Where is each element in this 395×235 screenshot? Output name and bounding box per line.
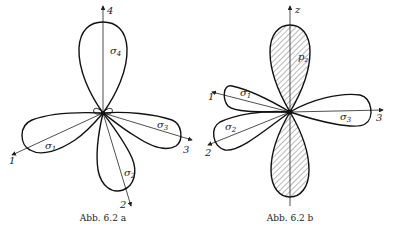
nucleus-dot <box>101 111 105 115</box>
axis-2 <box>103 113 131 206</box>
lobe-sigma2 <box>97 113 135 191</box>
caption-b: Abb. 6.2 b <box>266 213 314 223</box>
axis-label-1: 1 <box>208 91 214 102</box>
axis-3 <box>290 110 383 112</box>
axis-label-2: 2 <box>204 147 211 158</box>
lobe-label-sigma4: σ4 <box>110 45 121 58</box>
orbital-diagrams: 4 1 2 3 σ4 σ1 σ2 σ3 Abb. 6.2 a z 1 2 3 p… <box>0 0 395 235</box>
axis-label-2: 2 <box>119 199 126 210</box>
lobe-label-sigma3: σ3 <box>340 111 352 124</box>
axis-label-1: 1 <box>9 155 15 166</box>
axis-label-z: z <box>294 4 301 15</box>
lobe-label-sigma1: σ1 <box>240 87 251 100</box>
figure-b: z 1 2 3 pz σ1 σ2 σ3 Abb. 6.2 b <box>204 4 383 223</box>
axis-label-3: 3 <box>183 144 189 155</box>
nucleus-dot <box>288 110 293 115</box>
figure-a: 4 1 2 3 σ4 σ1 σ2 σ3 Abb. 6.2 a <box>9 5 192 223</box>
axis-label-4: 4 <box>106 5 113 16</box>
lobe-sigma3 <box>103 112 181 148</box>
axis-label-3: 3 <box>376 112 382 123</box>
caption-a: Abb. 6.2 a <box>79 213 127 223</box>
lobe-label-sigma2: σ2 <box>124 167 136 180</box>
lobe-label-sigma2: σ2 <box>225 121 237 134</box>
